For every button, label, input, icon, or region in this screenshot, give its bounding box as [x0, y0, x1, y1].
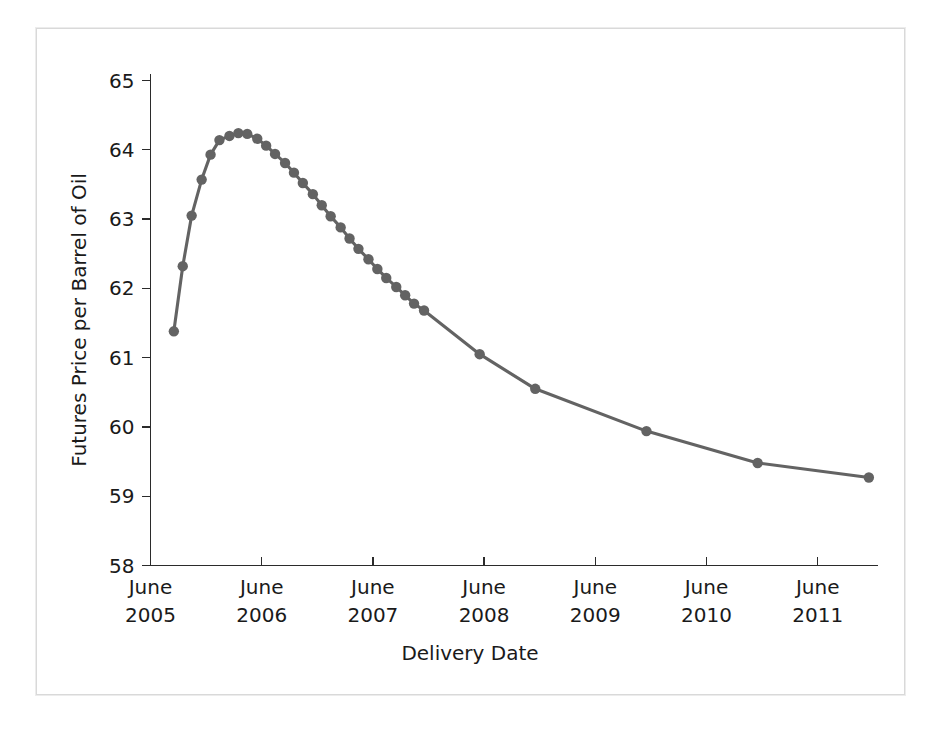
data-point-marker — [864, 472, 874, 482]
y-axis-ticks: 5859606162636465 — [109, 69, 150, 578]
data-line-futures-price — [174, 133, 869, 477]
y-tick-label: 61 — [109, 346, 134, 370]
y-tick-label: 62 — [109, 276, 134, 300]
data-point-marker — [530, 384, 540, 394]
data-point-marker — [641, 426, 651, 436]
x-axis-title: Delivery Date — [401, 641, 538, 665]
data-point-marker — [289, 167, 299, 177]
data-point-marker — [224, 131, 234, 141]
x-tick-label-month: June — [572, 575, 618, 599]
data-point-marker — [280, 158, 290, 168]
data-point-marker — [178, 261, 188, 271]
y-tick-label: 63 — [109, 207, 134, 231]
x-tick-label-month: June — [794, 575, 840, 599]
data-point-marker — [233, 128, 243, 138]
data-point-marker — [372, 264, 382, 274]
x-tick-label-month: June — [238, 575, 284, 599]
x-axis-ticks: June2005June2006June2007June2008June2009… — [125, 557, 843, 627]
x-tick-label-month: June — [349, 575, 395, 599]
data-point-marker — [419, 305, 429, 315]
data-point-marker — [344, 233, 354, 243]
data-point-marker — [391, 282, 401, 292]
data-markers — [169, 128, 874, 483]
data-point-marker — [169, 326, 179, 336]
x-tick-label-month: June — [683, 575, 729, 599]
y-tick-label: 59 — [109, 484, 134, 508]
y-tick-label: 60 — [109, 415, 134, 439]
data-point-marker — [335, 222, 345, 232]
data-point-marker — [363, 254, 373, 264]
line-chart: 5859606162636465 June2005June2006June200… — [0, 0, 942, 733]
data-point-marker — [261, 140, 271, 150]
y-tick-label: 64 — [109, 138, 134, 162]
y-tick-label: 65 — [109, 69, 134, 93]
x-tick-label-year: 2007 — [347, 603, 398, 627]
data-point-marker — [400, 290, 410, 300]
data-point-marker — [308, 189, 318, 199]
data-point-marker — [270, 149, 280, 159]
y-axis-title: Futures Price per Barrel of Oil — [67, 173, 91, 467]
page-background: 5859606162636465 June2005June2006June200… — [0, 0, 942, 733]
data-point-marker — [214, 135, 224, 145]
x-tick-label-year: 2011 — [792, 603, 843, 627]
data-point-marker — [317, 200, 327, 210]
data-point-marker — [186, 210, 196, 220]
data-point-marker — [353, 244, 363, 254]
chart-plot-svg: 5859606162636465 June2005June2006June200… — [0, 0, 942, 733]
x-tick-label-month: June — [127, 575, 173, 599]
data-point-marker — [298, 178, 308, 188]
x-tick-label-month: June — [460, 575, 506, 599]
data-point-marker — [205, 149, 215, 159]
data-point-marker — [325, 211, 335, 221]
data-point-marker — [196, 174, 206, 184]
x-tick-label-year: 2009 — [570, 603, 621, 627]
data-point-marker — [474, 349, 484, 359]
x-tick-label-year: 2005 — [125, 603, 176, 627]
data-point-marker — [252, 134, 262, 144]
data-point-marker — [381, 273, 391, 283]
x-tick-label-year: 2010 — [681, 603, 732, 627]
data-point-marker — [242, 129, 252, 139]
data-point-marker — [752, 458, 762, 468]
axis-lines — [151, 74, 879, 566]
data-point-marker — [409, 298, 419, 308]
x-tick-label-year: 2006 — [236, 603, 287, 627]
x-tick-label-year: 2008 — [459, 603, 510, 627]
